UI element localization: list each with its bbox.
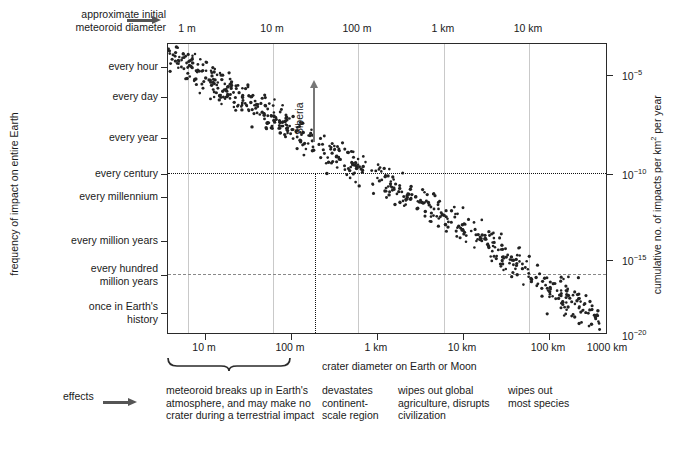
scatter-point <box>409 185 412 188</box>
scatter-point <box>210 70 212 72</box>
scatter-point <box>584 311 587 314</box>
scatter-point <box>453 206 456 209</box>
scatter-point <box>213 70 216 73</box>
right-axis-title-post: per year <box>651 95 663 136</box>
scatter-point <box>565 308 568 311</box>
top-axis-tick-label-4: 10 km <box>488 22 568 35</box>
scatter-point <box>459 227 462 230</box>
scatter-point <box>357 158 360 161</box>
scatter-point <box>470 230 473 233</box>
top-axis-tick-label-0: 1 m <box>147 22 227 35</box>
scatter-point <box>189 59 192 62</box>
scatter-point <box>338 158 341 161</box>
scatter-point <box>178 56 180 58</box>
scatter-point <box>544 284 547 287</box>
scatter-point <box>296 136 299 139</box>
bottom-axis-title: crater diameter on Earth or Moon <box>322 360 477 373</box>
scatter-point <box>279 111 282 114</box>
scatter-point <box>556 289 559 292</box>
scatter-point <box>194 53 197 56</box>
scatter-point <box>244 102 247 105</box>
scatter-point <box>454 213 457 216</box>
scatter-point <box>445 230 448 233</box>
scatter-point <box>400 190 403 193</box>
scatter-point <box>213 82 216 85</box>
scatter-point <box>473 246 476 249</box>
scatter-point <box>379 166 382 169</box>
scatter-point <box>432 193 435 196</box>
right-axis-tick-mantissa-0: 10 <box>622 70 634 82</box>
effects-item-1-line-2: scale region <box>322 409 402 422</box>
scatter-point <box>325 162 328 165</box>
scatter-point <box>480 219 483 222</box>
left-axis-tick-label-4: every millennium <box>36 190 158 203</box>
scatter-point <box>563 306 566 309</box>
scatter-point <box>268 121 271 124</box>
scatter-point <box>241 96 244 99</box>
right-axis-tick-label-2: 10−15 <box>622 252 646 267</box>
scatter-point <box>491 250 494 253</box>
scatter-point <box>486 243 489 246</box>
scatter-point <box>213 96 216 99</box>
scatter-point <box>402 195 405 198</box>
scatter-point <box>362 155 365 158</box>
right-axis-tick-label-1: 10−10 <box>622 166 646 181</box>
left-axis-tick-5 <box>161 241 168 242</box>
scatter-point <box>475 240 478 243</box>
scatter-point <box>383 189 386 192</box>
top-axis-tick-label-1: 10 m <box>232 22 312 35</box>
scatter-point <box>489 255 492 258</box>
scatter-point <box>329 148 332 151</box>
scatter-point <box>518 254 521 257</box>
scatter-point <box>386 174 389 177</box>
scatter-point <box>465 234 468 237</box>
scatter-point <box>593 314 596 317</box>
scatter-point <box>426 193 429 196</box>
scatter-point <box>590 323 593 326</box>
right-axis-tick-exponent-3: −20 <box>634 328 647 337</box>
scatter-point <box>212 78 215 81</box>
scatter-point <box>266 108 269 111</box>
scatter-point <box>567 294 570 297</box>
scatter-point <box>516 254 519 257</box>
scatter-point <box>560 289 563 292</box>
scatter-point <box>177 47 180 50</box>
scatter-point <box>374 169 377 172</box>
scatter-point <box>587 312 590 315</box>
scatter-point <box>432 214 435 217</box>
scatter-point <box>439 215 442 218</box>
scatter-point <box>566 305 569 308</box>
scatter-point <box>227 71 230 74</box>
scatter-point <box>333 149 336 152</box>
scatter-point <box>588 308 591 311</box>
scatter-point <box>490 260 493 263</box>
scatter-point <box>264 104 267 107</box>
scatter-point <box>579 311 582 314</box>
scatter-point <box>508 262 511 265</box>
scatter-point <box>515 273 518 276</box>
effects-item-2-line-0: wipes out global <box>398 384 508 397</box>
scatter-point <box>529 277 532 280</box>
siberia-arrow-icon <box>310 80 319 142</box>
scatter-point <box>409 188 412 191</box>
scatter-point <box>487 230 490 233</box>
left-axis-tick-label-6-line2: million years <box>36 275 158 288</box>
right-axis-title: cumulative no. of impacts per km2 per ye… <box>649 85 663 305</box>
scatter-point <box>423 215 426 218</box>
scatter-point <box>204 76 207 79</box>
left-axis-title: frequency of impact on entire Earth <box>8 94 20 294</box>
scatter-point <box>435 215 438 218</box>
scatter-point <box>385 196 388 199</box>
scatter-point <box>591 308 594 311</box>
scatter-point <box>410 193 413 196</box>
scatter-point <box>323 152 326 155</box>
scatter-point <box>330 161 333 164</box>
scatter-point <box>512 259 515 262</box>
scatter-point <box>500 248 503 251</box>
scatter-point <box>178 60 181 63</box>
scatter-point <box>270 114 273 117</box>
scatter-point <box>217 81 220 84</box>
scatter-point <box>541 280 544 283</box>
scatter-point <box>527 272 530 275</box>
scatter-point <box>168 70 171 73</box>
